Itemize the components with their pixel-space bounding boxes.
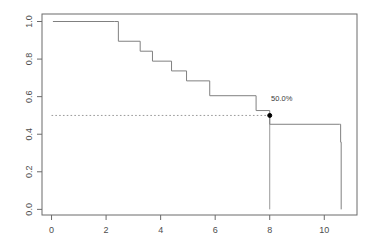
median-label: 50.0%	[271, 94, 293, 103]
chart-canvas: 02468100.00.20.40.60.81.050.0%	[0, 0, 374, 251]
y-tick-label: 0.8	[24, 53, 34, 66]
x-tick-label: 2	[104, 225, 109, 235]
x-tick-label: 10	[319, 225, 329, 235]
plot-box	[42, 14, 357, 215]
y-tick-label: 0.2	[24, 166, 34, 179]
x-tick-label: 0	[49, 225, 54, 235]
median-point	[268, 113, 272, 117]
y-tick-label: 1.0	[24, 15, 34, 28]
x-tick-label: 6	[213, 225, 218, 235]
y-tick-label: 0.6	[24, 90, 34, 103]
x-tick-label: 8	[267, 225, 272, 235]
survival-chart: 02468100.00.20.40.60.81.050.0%	[0, 0, 374, 251]
x-tick-label: 4	[158, 225, 163, 235]
y-tick-label: 0.0	[24, 203, 34, 216]
y-tick-label: 0.4	[24, 128, 34, 141]
